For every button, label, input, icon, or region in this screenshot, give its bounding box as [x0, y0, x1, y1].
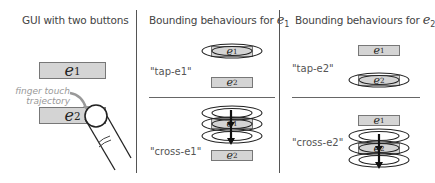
panel3-title-sub: 2: [430, 20, 435, 29]
